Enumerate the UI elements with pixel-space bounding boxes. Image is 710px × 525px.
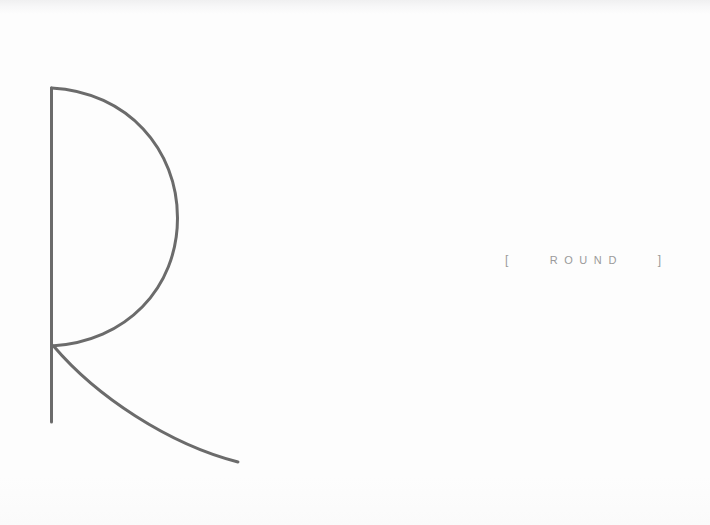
wordmark: [ ROUND ] bbox=[505, 248, 661, 272]
wordmark-label: ROUND bbox=[543, 255, 623, 266]
wordmark-bracket-close: ] bbox=[658, 254, 661, 266]
logo-canvas: [ ROUND ] bbox=[0, 0, 710, 525]
logo-bowl-path bbox=[52, 88, 178, 346]
logo-leg-path bbox=[54, 346, 239, 462]
wordmark-bracket-open: [ bbox=[505, 254, 508, 266]
